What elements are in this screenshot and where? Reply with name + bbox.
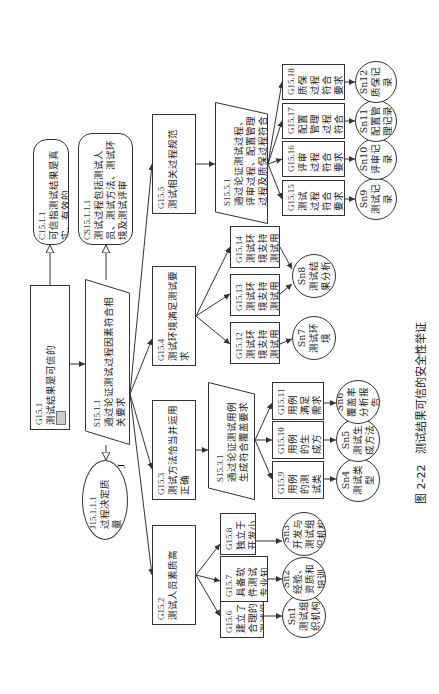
goal-G15-2: G15.2 测试人员素质高 <box>152 525 196 625</box>
figure-number: 图 2-22 <box>415 465 428 504</box>
gsn-diagram: G15.1 测试结果是可信的 C15.1.1 可信指测试结果是真实、有效的 CS… <box>0 0 439 694</box>
solution-Sn5: Sn5 测试生成方法 <box>336 418 380 462</box>
goal-G15-4: G15.4 测试环境满足测试要求 <box>152 266 196 366</box>
context-C15-1-1: C15.1.1 可信指测试结果是真实、有效的 <box>33 139 69 245</box>
strategy-S15-3-1: S15.3.1 通过论证测试用例生成符合覆盖要求 <box>208 382 255 500</box>
goal-G15-17: G15.17 配置管理过程符合要求 <box>282 103 345 139</box>
goal-G15-18: G15.18 质保过程符合要求 <box>282 64 345 100</box>
justification-J15-1-1-1: J15.1.1.1 过程决定质量 <box>82 460 128 540</box>
figure-title: 测试结果可信的安全性举证 <box>415 322 428 454</box>
goal-G15-8: G15.8 独立于开发小组 <box>220 513 256 555</box>
solution-Sn12: Sn12 质保记录 <box>355 61 397 103</box>
goal-G15-16: G15.16 评审过程符合要求 <box>282 141 345 177</box>
solution-Sn7: Sn7 测试环境 <box>292 316 336 360</box>
figure-caption: 图 2-22 测试结果可信的安全性举证 <box>412 322 428 504</box>
goal-G15-13: G15.13 测试环境支持测试用例的执行 <box>230 274 280 316</box>
solution-Sn9: Sn9 测试记录 <box>355 178 397 220</box>
goal-G15-7: G15.7 具备软件测试专业知识，符合岗位要求 <box>220 556 268 602</box>
solution-Sn6: Sn6 覆盖率分析报告 <box>336 380 380 424</box>
goal-G15-11: G15.11 用例满足需求覆盖率要求 <box>272 382 324 420</box>
goal-G15-15: G15.15 测试过程符合要求 <box>282 180 345 216</box>
justification-mark: J <box>116 464 127 468</box>
strategy-S15-5-1: S15.5.1 通过论证测试过程、评审过程、配置管理过程及质保过程符合要求 <box>215 102 268 224</box>
solution-Sn8: Sn8 测试结果分析 <box>292 254 336 298</box>
goal-G15-9: G15.9 用例的测试类型是充分的 <box>272 461 324 499</box>
strategy-S15-1-1: S15.1.1 通过论证测试过程因素符合相关要求 <box>85 279 130 445</box>
solution-Sn2: Sn2 经验、资质和培训 <box>282 557 326 601</box>
solution-Sn11: Sn11 配置管理记录 <box>355 100 397 142</box>
undeveloped-marker-icon <box>56 411 66 425</box>
solution-Sn10: Sn10 评审记录 <box>355 138 397 180</box>
context-CS15-1-1-1: CS15.1.1.1 测试过程包括测试人员、测试方法、测试环境及测试评审 <box>78 133 133 245</box>
goal-G15-12: G15.12 测试环境支持测试用例的施加 <box>230 322 280 364</box>
goal-G15-3: G15.3 测试方法恰当并运用正确 <box>152 400 196 500</box>
goal-G15-1: G15.1 测试结果是可信的 <box>30 285 70 430</box>
goal-G15-10: G15.10 用例的生成方法是正确的 <box>272 421 324 459</box>
solution-Sn4: Sn4 测试类型 <box>336 458 380 502</box>
goal-G15-5: G15.5 测试相关过程规范 <box>152 114 196 214</box>
goal-G15-14: G15.14 测试环境支持测试用例的输出收集 <box>230 226 280 268</box>
solution-Sn3: Sn3 开发与测试组织机构 <box>282 512 326 556</box>
